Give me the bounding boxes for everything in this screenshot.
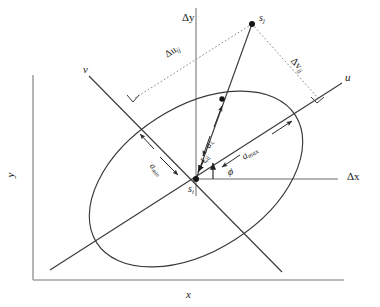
a-max-measure	[222, 121, 292, 167]
du-projection-dotted	[252, 24, 318, 98]
delta-x-axis-label: Δx	[347, 171, 360, 182]
global-x-axis-label: x	[186, 289, 191, 300]
a-min-arrow-outer	[140, 134, 154, 149]
anisotropy-ellipse-diagram: Δy Δx sj si Δuij Δvij u v amax amin aξ ξ…	[0, 0, 380, 307]
point-label-sj: sj	[259, 13, 265, 24]
point-label-si: si	[188, 184, 194, 195]
global-y-axis-label: y	[5, 173, 16, 178]
u-axis-label: u	[345, 72, 351, 83]
dv-projection-dotted	[135, 24, 252, 98]
phi-angle-label: ϕ	[228, 167, 233, 177]
point-ellipse-intersection	[219, 96, 224, 101]
point-sj	[249, 21, 255, 27]
v-axis-label: v	[83, 64, 88, 75]
diagram-canvas	[0, 0, 380, 307]
delta-y-axis-label: Δy	[182, 12, 195, 23]
v-principal-axis	[89, 76, 282, 272]
a-xi-arrow-up	[214, 106, 222, 127]
right-angle-mark-left	[127, 95, 139, 102]
point-si	[193, 176, 199, 182]
a-max-arrow-outer	[272, 121, 292, 134]
